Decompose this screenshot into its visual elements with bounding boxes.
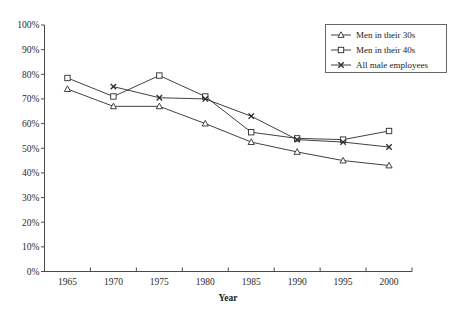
legend-item-label: Men in their 30s	[356, 30, 416, 40]
y-tick-label: 50%	[22, 144, 40, 154]
open-square-marker	[249, 130, 254, 135]
open-square-marker	[338, 47, 343, 52]
line-chart: 0%10%20%30%40%50%60%70%80%90%100% 196519…	[0, 0, 453, 312]
x-tick-label: 1980	[196, 277, 215, 287]
x-tick-label: 1965	[58, 277, 77, 287]
y-tick-label: 100%	[17, 20, 39, 30]
open-square-marker	[111, 94, 116, 99]
series-layer	[64, 73, 392, 168]
chart-legend: Men in their 30sMen in their 40sAll male…	[326, 25, 447, 73]
x-tick-label: 1995	[334, 277, 353, 287]
y-tick-label: 30%	[22, 193, 40, 203]
legend-item-label: Men in their 40s	[356, 45, 416, 55]
open-square-marker	[157, 73, 162, 78]
x-tick-label: 1975	[150, 277, 169, 287]
y-tick-label: 70%	[22, 94, 40, 104]
legend-item-label: All male employees	[356, 60, 428, 70]
x-axis-title: Year	[219, 293, 239, 303]
y-tick-label: 60%	[22, 119, 40, 129]
x-tick-label: 1985	[242, 277, 261, 287]
y-tick-label: 0%	[27, 267, 40, 277]
open-triangle-marker	[64, 86, 70, 92]
y-tick-label: 80%	[22, 70, 40, 80]
y-axis-tickmarks	[41, 25, 45, 272]
x-tick-label: 1990	[288, 277, 307, 287]
x-tick-label: 2000	[380, 277, 399, 287]
y-tick-label: 10%	[22, 242, 40, 252]
open-square-marker	[65, 75, 70, 80]
y-tick-label: 20%	[22, 218, 40, 228]
y-tick-label: 90%	[22, 45, 40, 55]
x-axis-tickmarks	[45, 268, 413, 272]
open-square-marker	[386, 128, 391, 133]
y-axis-tick-labels: 0%10%20%30%40%50%60%70%80%90%100%	[17, 20, 39, 277]
x-axis-tick-labels: 19651970197519801985199019952000	[58, 277, 399, 287]
chart-canvas: 0%10%20%30%40%50%60%70%80%90%100% 196519…	[0, 0, 453, 312]
series-line	[67, 89, 389, 165]
y-tick-label: 40%	[22, 168, 40, 178]
x-tick-label: 1970	[104, 277, 123, 287]
